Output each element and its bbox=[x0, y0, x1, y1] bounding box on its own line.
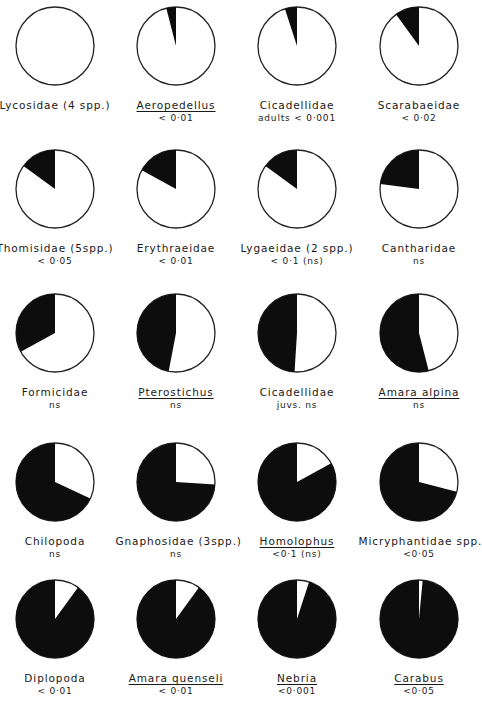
pie-chart-9: Formicidaens bbox=[0, 292, 116, 411]
pie-graphic bbox=[256, 5, 338, 87]
pie-chart-2: Aeropedellus< 0·01 bbox=[116, 5, 237, 124]
significance-label: juvs. ns bbox=[237, 399, 358, 411]
pie-chart-13: Chilopodans bbox=[0, 441, 116, 560]
pie-chart-19: Nebria<0·001 bbox=[237, 578, 358, 697]
pie-chart-11: Cicadellidaejuvs. ns bbox=[237, 292, 358, 411]
significance-label: adults < 0·001 bbox=[237, 112, 358, 124]
pie-chart-12: Amara alpinans bbox=[359, 292, 480, 411]
pie-chart-18: Amara quenseli< 0·01 bbox=[116, 578, 237, 697]
pie-graphic bbox=[135, 5, 217, 87]
pie-filled-sector bbox=[137, 294, 176, 371]
significance-label: <0·05 bbox=[359, 685, 480, 697]
pie-graphic bbox=[14, 5, 96, 87]
pie-chart-5: Thomisidae (5spp.)< 0·05 bbox=[0, 148, 116, 267]
pie-chart-1: Lycosidae (4 spp.) bbox=[0, 5, 116, 112]
pie-label: Diplopoda bbox=[0, 672, 116, 685]
significance-label: ns bbox=[359, 399, 480, 411]
pie-graphic bbox=[14, 292, 96, 374]
pie-filled-sector bbox=[258, 580, 336, 658]
pie-graphic bbox=[135, 148, 217, 230]
pie-graphic bbox=[256, 292, 338, 374]
pie-chart-14: Gnaphosidae (3spp.)ns bbox=[116, 441, 237, 560]
pie-graphic bbox=[256, 578, 338, 660]
pie-chart-17: Diplopoda< 0·01 bbox=[0, 578, 116, 697]
pie-label: Formicidae bbox=[0, 386, 116, 399]
pie-label: Erythraeidae bbox=[116, 242, 237, 255]
pie-chart-20: Carabus<0·05 bbox=[359, 578, 480, 697]
significance-label: ns bbox=[0, 399, 116, 411]
pie-chart-16: Micryphantidae spp.<0·05 bbox=[359, 441, 480, 560]
pie-filled-sector bbox=[137, 580, 215, 658]
pie-filled-sector bbox=[380, 150, 419, 189]
pie-chart-7: Lygaeidae (2 spp.)< 0·1 (ns) bbox=[237, 148, 358, 267]
pie-graphic bbox=[256, 148, 338, 230]
pie-label: Scarabaeidae bbox=[359, 99, 480, 112]
pie-graphic bbox=[14, 148, 96, 230]
pie-label: Amara alpina bbox=[359, 386, 480, 399]
pie-label: Carabus bbox=[359, 672, 480, 685]
pie-graphic bbox=[378, 578, 460, 660]
significance-label: <0·001 bbox=[237, 685, 358, 697]
pie-label: Chilopoda bbox=[0, 535, 116, 548]
pie-graphic bbox=[135, 292, 217, 374]
significance-label: <0·1 (ns) bbox=[237, 548, 358, 560]
pie-chart-4: Scarabaeidae< 0·02 bbox=[359, 5, 480, 124]
significance-label: < 0·1 (ns) bbox=[237, 255, 358, 267]
pie-graphic bbox=[378, 148, 460, 230]
significance-label: ns bbox=[359, 255, 480, 267]
pie-label: Cantharidae bbox=[359, 242, 480, 255]
pie-chart-6: Erythraeidae< 0·01 bbox=[116, 148, 237, 267]
pie-graphic bbox=[135, 441, 217, 523]
significance-label: < 0·05 bbox=[0, 255, 116, 267]
pie-chart-15: Homolophus<0·1 (ns) bbox=[237, 441, 358, 560]
significance-label: <0·05 bbox=[359, 548, 480, 560]
pie-graphic bbox=[135, 578, 217, 660]
significance-label: < 0·01 bbox=[116, 112, 237, 124]
pie-label: Lygaeidae (2 spp.) bbox=[237, 242, 358, 255]
significance-label: < 0·01 bbox=[116, 685, 237, 697]
significance-label: ns bbox=[116, 548, 237, 560]
pie-filled-sector bbox=[16, 580, 94, 658]
pie-chart-3: Cicadellidaeadults < 0·001 bbox=[237, 5, 358, 124]
pie-graphic bbox=[256, 441, 338, 523]
pie-label: Homolophus bbox=[237, 535, 358, 548]
significance-label: ns bbox=[116, 399, 237, 411]
pie-graphic bbox=[378, 441, 460, 523]
pie-label: Pterostichus bbox=[116, 386, 237, 399]
pie-label: Cicadellidae bbox=[237, 386, 358, 399]
significance-label: < 0·01 bbox=[0, 685, 116, 697]
pie-label: Lycosidae (4 spp.) bbox=[0, 99, 116, 112]
pie-graphic bbox=[14, 578, 96, 660]
pie-label: Micryphantidae spp. bbox=[359, 535, 480, 548]
significance-label: ns bbox=[0, 548, 116, 560]
pie-label: Thomisidae (5spp.) bbox=[0, 242, 116, 255]
pie-graphic bbox=[14, 441, 96, 523]
pie-graphic bbox=[378, 5, 460, 87]
pie-label: Cicadellidae bbox=[237, 99, 358, 112]
pie-chart-8: Cantharidaens bbox=[359, 148, 480, 267]
significance-label: < 0·02 bbox=[359, 112, 480, 124]
pie-label: Nebria bbox=[237, 672, 358, 685]
pie-label: Aeropedellus bbox=[116, 99, 237, 112]
pie-chart-10: Pterostichusns bbox=[116, 292, 237, 411]
pie-filled-sector bbox=[258, 294, 297, 372]
significance-label: < 0·01 bbox=[116, 255, 237, 267]
pie-label: Amara quenseli bbox=[116, 672, 237, 685]
pie-graphic bbox=[378, 292, 460, 374]
pie-label: Gnaphosidae (3spp.) bbox=[116, 535, 237, 548]
